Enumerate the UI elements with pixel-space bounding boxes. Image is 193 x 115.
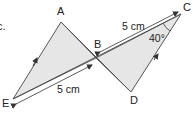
angle-label-c: 40° bbox=[149, 32, 165, 44]
geometry-diagram: c. A B C D E 5 cm 5 cm 40° bbox=[0, 0, 193, 115]
point-label-c: C bbox=[183, 1, 191, 13]
partial-text: c. bbox=[0, 20, 6, 32]
point-label-a: A bbox=[57, 5, 65, 17]
measure-label-eb: 5 cm bbox=[57, 83, 80, 95]
point-label-e: E bbox=[2, 97, 9, 109]
measure-label-bc: 5 cm bbox=[122, 20, 145, 32]
point-label-b: B bbox=[94, 38, 101, 50]
point-label-d: D bbox=[130, 94, 138, 106]
triangle-abe bbox=[13, 22, 96, 99]
